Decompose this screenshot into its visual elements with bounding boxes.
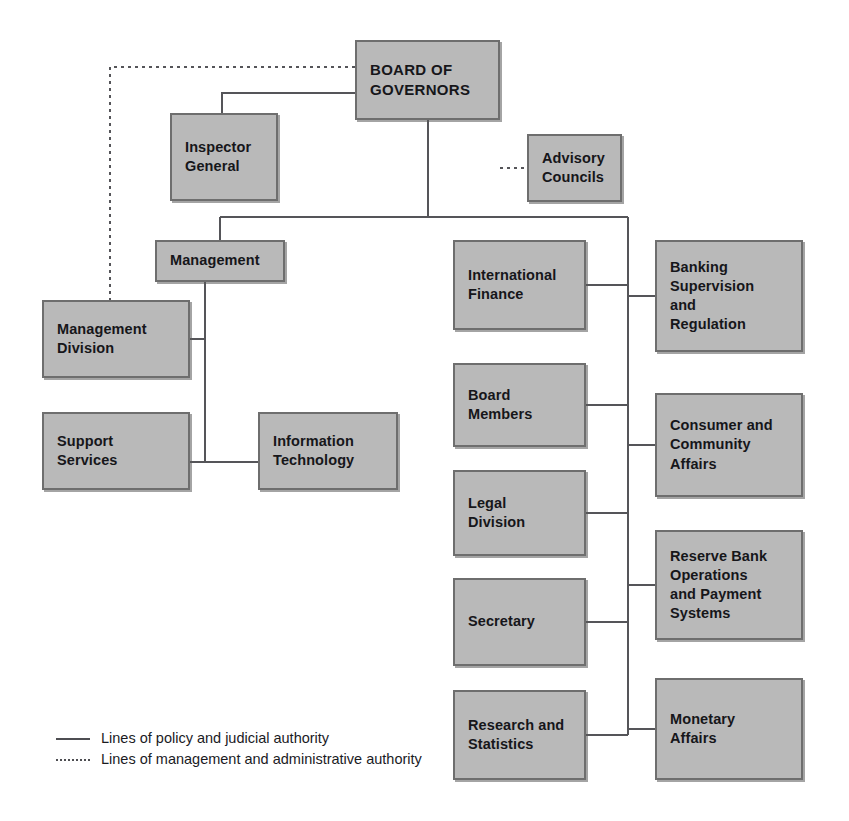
node-label: Secretary — [468, 612, 535, 631]
node-international-finance[interactable]: International Finance — [453, 240, 586, 330]
node-consumer-and-community-affairs[interactable]: Consumer and Community Affairs — [655, 393, 803, 497]
node-label: BOARD OF GOVERNORS — [370, 60, 470, 100]
node-label: Information Technology — [273, 432, 354, 470]
legend-label: Lines of management and administrative a… — [101, 752, 422, 767]
node-secretary[interactable]: Secretary — [453, 578, 586, 666]
node-label: Monetary Affairs — [670, 710, 735, 748]
legend-label: Lines of policy and judicial authority — [101, 731, 329, 746]
node-legal-division[interactable]: Legal Division — [453, 470, 586, 556]
node-label: Support Services — [57, 432, 117, 470]
node-label: Board Members — [468, 386, 532, 424]
node-board-of-governors[interactable]: BOARD OF GOVERNORS — [355, 40, 500, 120]
node-label: International Finance — [468, 266, 556, 304]
solid-line-icon — [56, 738, 90, 740]
node-label: Consumer and Community Affairs — [670, 416, 773, 473]
node-reserve-bank-operations[interactable]: Reserve Bank Operations and Payment Syst… — [655, 530, 803, 640]
legend: Lines of policy and judicial authority L… — [56, 728, 486, 770]
node-label: Management Division — [57, 320, 147, 358]
line-bog-to-inspector-general — [222, 93, 355, 113]
legend-item-dashed: Lines of management and administrative a… — [56, 749, 486, 770]
node-label: Banking Supervision and Regulation — [670, 258, 754, 335]
node-support-services[interactable]: Support Services — [42, 412, 190, 490]
node-label: Inspector General — [185, 138, 251, 176]
node-label: Advisory Councils — [542, 149, 605, 187]
node-label: Management — [170, 251, 260, 270]
node-management-division[interactable]: Management Division — [42, 300, 190, 378]
node-monetary-affairs[interactable]: Monetary Affairs — [655, 678, 803, 780]
node-information-technology[interactable]: Information Technology — [258, 412, 398, 490]
node-inspector-general[interactable]: Inspector General — [170, 113, 278, 201]
legend-item-solid: Lines of policy and judicial authority — [56, 728, 486, 749]
node-label: Legal Division — [468, 494, 525, 532]
node-advisory-councils[interactable]: Advisory Councils — [527, 134, 622, 202]
org-chart: BOARD OF GOVERNORS Inspector General Adv… — [0, 0, 849, 821]
node-banking-supervision-and-regulation[interactable]: Banking Supervision and Regulation — [655, 240, 803, 352]
node-label: Reserve Bank Operations and Payment Syst… — [670, 547, 767, 624]
node-management[interactable]: Management — [155, 240, 285, 282]
dashed-line-icon — [56, 759, 90, 761]
node-board-members[interactable]: Board Members — [453, 363, 586, 447]
